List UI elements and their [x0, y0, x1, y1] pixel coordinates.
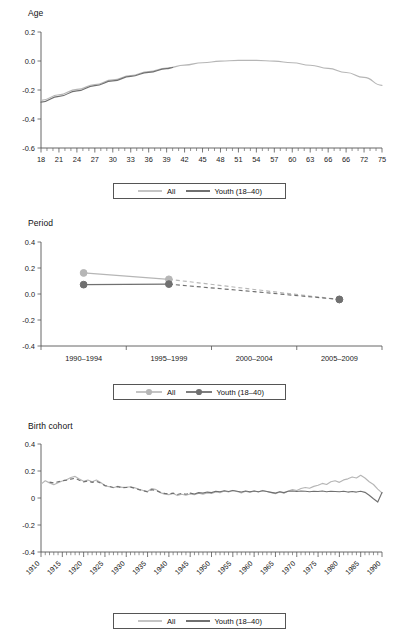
tick-label: 75: [378, 155, 386, 164]
tick-label: 1990–1994: [65, 354, 102, 363]
tick-label: 30: [109, 155, 117, 164]
tick-label: 24: [73, 155, 81, 164]
tick-label: 1990: [365, 559, 383, 577]
tick-label: 0.0: [25, 290, 35, 299]
tick-label: 1950: [194, 559, 212, 577]
legend-item-all: All: [135, 387, 175, 397]
data-point-marker: [336, 296, 343, 303]
series-line-youth-dashed: [169, 284, 340, 299]
tick-label: 63: [306, 155, 314, 164]
legend-label-all: All: [167, 617, 175, 626]
legend-label-youth: Youth (18–40): [215, 617, 262, 626]
legend-line-all-icon: [137, 617, 163, 625]
series-line-youth: [41, 68, 173, 103]
chart-period: 0.40.20.0-0.2-0.41990–19941995–19992000–…: [0, 234, 398, 379]
tick-label: 72: [360, 155, 368, 164]
tick-label: 18: [37, 155, 45, 164]
tick-label: 1960: [237, 559, 255, 577]
legend-item-youth: Youth (18–40): [185, 187, 262, 196]
tick-label: 1980: [322, 559, 340, 577]
tick-label: 39: [163, 155, 171, 164]
legend-period: All Youth (18–40): [113, 384, 286, 400]
tick-label: -0.2: [22, 521, 35, 530]
figure-page: Age 0.20.0-0.2-0.4-0.6182124273033363942…: [0, 0, 398, 639]
tick-label: 51: [234, 155, 242, 164]
tick-label: 33: [127, 155, 135, 164]
series-line-all: [41, 60, 382, 100]
tick-label: 1975: [301, 559, 319, 577]
legend-age: All Youth (18–40): [113, 183, 286, 199]
legend-item-youth: Youth (18–40): [185, 387, 264, 397]
tick-label: 54: [252, 155, 260, 164]
tick-label: 48: [216, 155, 224, 164]
tick-label: 0.2: [25, 264, 35, 273]
tick-label: 1935: [130, 559, 148, 577]
tick-label: 42: [180, 155, 188, 164]
tick-label: 1970: [279, 559, 297, 577]
series-line-all-dashed: [169, 279, 340, 299]
tick-label: 1920: [66, 559, 84, 577]
tick-label: 1910: [24, 559, 42, 577]
tick-label: 1930: [109, 559, 127, 577]
data-point-marker: [80, 281, 87, 288]
legend-label-all: All: [167, 187, 175, 196]
tick-label: -0.2: [22, 316, 35, 325]
legend-label-all: All: [167, 388, 175, 397]
tick-label: 1945: [173, 559, 191, 577]
tick-label: -0.6: [22, 144, 35, 153]
tick-label: 1925: [88, 559, 106, 577]
tick-label: 45: [198, 155, 206, 164]
tick-label: 27: [91, 155, 99, 164]
chart-cohort: 0.40.20-0.2-0.41910191519201925193019351…: [0, 436, 398, 611]
legend-item-all: All: [137, 187, 175, 196]
chart-age: 0.20.0-0.2-0.4-0.61821242730333639424548…: [0, 24, 398, 176]
tick-label: 0.4: [25, 440, 35, 449]
tick-label: -0.4: [22, 548, 35, 557]
tick-label: 1995–1999: [150, 354, 187, 363]
series-line-all-solid: [84, 273, 169, 279]
series-line-youth: [190, 490, 382, 502]
panel-title-period: Period: [28, 218, 53, 228]
legend-cohort: All Youth (18–40): [113, 613, 286, 629]
tick-label: 21: [55, 155, 63, 164]
legend-line-all-icon: [137, 187, 163, 195]
tick-label: 36: [145, 155, 153, 164]
tick-label: 57: [270, 155, 278, 164]
legend-label-youth: Youth (18–40): [215, 187, 262, 196]
tick-label: 0.2: [25, 28, 35, 37]
series-line-youth-solid: [84, 284, 169, 285]
plot-period: 0.40.20.0-0.2-0.41990–19941995–19992000–…: [0, 234, 398, 379]
panel-title-age: Age: [28, 8, 43, 18]
data-point-marker: [165, 281, 172, 288]
tick-label: -0.4: [22, 115, 35, 124]
legend-line-marker-all-icon: [135, 387, 163, 397]
tick-label: 1955: [216, 559, 234, 577]
tick-label: 1915: [45, 559, 63, 577]
panel-title-cohort: Birth cohort: [28, 421, 73, 431]
plot-age: 0.20.0-0.2-0.4-0.61821242730333639424548…: [0, 24, 398, 176]
data-point-marker: [80, 270, 87, 277]
tick-label: 0.4: [25, 238, 35, 247]
tick-label: -0.4: [22, 342, 35, 351]
tick-label: 60: [288, 155, 296, 164]
tick-label: 1985: [343, 559, 361, 577]
legend-label-youth: Youth (18–40): [217, 388, 264, 397]
legend-item-youth: Youth (18–40): [185, 617, 262, 626]
tick-label: 66: [342, 155, 350, 164]
tick-label: 0.0: [25, 57, 35, 66]
legend-line-marker-youth-icon: [185, 387, 213, 397]
legend-item-all: All: [137, 617, 175, 626]
tick-label: 0.2: [25, 467, 35, 476]
tick-label: 0: [31, 494, 35, 503]
tick-label: 2005–2009: [321, 354, 358, 363]
tick-label: 2000–2004: [236, 354, 273, 363]
tick-label: 1940: [152, 559, 170, 577]
plot-cohort: 0.40.20-0.2-0.41910191519201925193019351…: [0, 436, 398, 611]
tick-label: 1965: [258, 559, 276, 577]
tick-label: -0.2: [22, 86, 35, 95]
legend-line-youth-icon: [185, 617, 211, 625]
legend-line-youth-icon: [185, 187, 211, 195]
tick-label: 66: [324, 155, 332, 164]
